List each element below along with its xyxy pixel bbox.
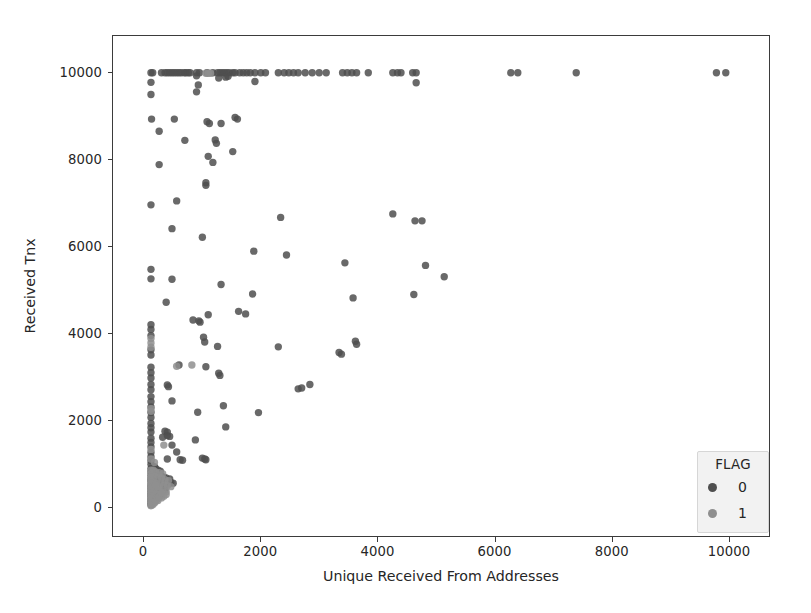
y-tick-label: 4000 — [68, 325, 102, 340]
scatter-point — [234, 115, 241, 122]
scatter-point — [173, 363, 180, 370]
scatter-point — [159, 434, 166, 441]
scatter-point — [507, 69, 514, 76]
scatter-point — [224, 73, 231, 80]
plot-axes-area — [112, 35, 770, 537]
scatter-point — [168, 397, 175, 404]
scatter-point — [713, 69, 720, 76]
scatter-point — [365, 69, 372, 76]
scatter-point — [164, 455, 171, 462]
scatter-point — [283, 251, 290, 258]
scatter-point — [205, 311, 212, 318]
scatter-point — [207, 70, 214, 77]
scatter-point — [222, 423, 229, 430]
scatter-point — [411, 217, 418, 224]
scatter-point — [179, 457, 186, 464]
y-tick-mark — [108, 333, 113, 334]
scatter-point — [168, 441, 175, 448]
scatter-point — [412, 79, 419, 86]
scatter-point — [171, 115, 178, 122]
scatter-point — [316, 69, 323, 76]
scatter-point — [188, 361, 195, 368]
x-tick-mark — [143, 537, 144, 542]
scatter-point — [160, 441, 167, 448]
x-tick-label: 10000 — [708, 544, 750, 559]
legend-entry-1[interactable]: 1 — [698, 500, 768, 526]
scatter-point — [155, 128, 162, 135]
y-tick-label: 6000 — [68, 238, 102, 253]
scatter-point — [722, 69, 729, 76]
scatter-point — [147, 275, 154, 282]
scatter-point — [192, 436, 199, 443]
x-tick-mark — [729, 537, 730, 542]
scatter-point — [353, 69, 360, 76]
scatter-point — [147, 455, 154, 462]
scatter-point — [155, 161, 162, 168]
scatter-point — [148, 115, 155, 122]
y-tick-label: 2000 — [68, 412, 102, 427]
y-tick-mark — [108, 159, 113, 160]
scatter-point — [194, 409, 201, 416]
scatter-point — [202, 363, 209, 370]
scatter-point — [349, 294, 356, 301]
scatter-point — [186, 69, 193, 76]
scatter-point — [147, 446, 154, 453]
y-tick-mark — [108, 420, 113, 421]
scatter-point — [147, 386, 154, 393]
scatter-point — [173, 197, 180, 204]
legend-box[interactable]: FLAG 01 — [697, 451, 769, 533]
y-tick-mark — [108, 507, 113, 508]
scatter-point — [193, 72, 200, 79]
scatter-point — [213, 140, 220, 147]
scatter-point — [220, 402, 227, 409]
scatter-point — [147, 374, 154, 381]
scatter-point — [199, 234, 206, 241]
scatter-point — [195, 81, 202, 88]
scatter-point — [275, 343, 282, 350]
scatter-point — [353, 341, 360, 348]
scatter-point — [277, 214, 284, 221]
scatter-point — [514, 69, 521, 76]
scatter-point — [214, 343, 221, 350]
x-tick-label: 0 — [139, 544, 148, 559]
y-tick-mark — [108, 72, 113, 73]
y-tick-mark — [108, 246, 113, 247]
legend-marker-icon — [708, 509, 717, 518]
scatter-point — [202, 182, 209, 189]
scatter-point — [209, 159, 216, 166]
scatter-point — [193, 88, 200, 95]
x-tick-label: 6000 — [478, 544, 512, 559]
scatter-point — [255, 409, 262, 416]
scatter-point — [215, 74, 222, 81]
scatter-point — [309, 69, 316, 76]
scatter-point — [206, 120, 213, 127]
scatter-point — [410, 291, 417, 298]
scatter-point — [229, 148, 236, 155]
scatter-point — [235, 308, 242, 315]
scatter-point — [147, 351, 154, 358]
scatter-point — [250, 247, 257, 254]
scatter-point — [196, 318, 203, 325]
legend-title: FLAG — [698, 456, 768, 474]
scatter-point — [162, 299, 169, 306]
x-tick-label: 4000 — [360, 544, 394, 559]
x-tick-mark — [377, 537, 378, 542]
scatter-point — [205, 153, 212, 160]
scatter-point — [294, 69, 301, 76]
scatter-point — [251, 78, 258, 85]
scatter-point — [301, 69, 308, 76]
scatter-point — [147, 201, 154, 208]
legend-entry-0[interactable]: 0 — [698, 474, 768, 500]
y-tick-label: 10000 — [60, 64, 102, 79]
scatter-point — [422, 262, 429, 269]
scatter-point — [242, 310, 249, 317]
scatter-point — [262, 69, 269, 76]
scatter-point — [412, 69, 419, 76]
scatter-point — [418, 217, 425, 224]
scatter-point — [397, 69, 404, 76]
y-tick-label: 0 — [94, 499, 103, 514]
scatter-point — [201, 338, 208, 345]
scatter-point — [168, 276, 175, 283]
scatter-point — [165, 383, 172, 390]
scatter-point — [306, 381, 313, 388]
